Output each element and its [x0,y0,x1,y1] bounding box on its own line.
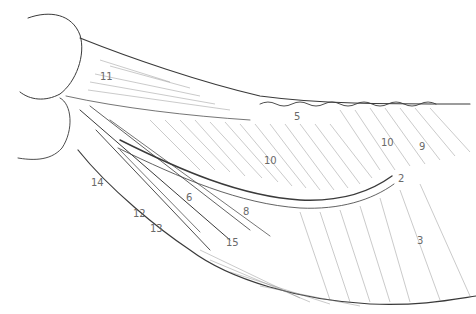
tendon-band-1 [80,110,230,240]
costal-arch [120,140,392,200]
label-12: 12 [133,209,146,219]
tendon-band-5 [120,150,200,232]
label-3: 3 [417,236,423,246]
label-14: 14 [91,178,104,188]
label-10-right: 10 [381,138,394,148]
lower-rounded-mass-outline [18,98,70,159]
label-8: 8 [243,207,249,217]
label-13: 13 [150,224,163,234]
label-11: 11 [100,72,113,82]
label-15: 15 [226,238,239,248]
label-5: 5 [294,112,300,122]
muscle-11-upper-edge [80,38,470,104]
anatomical-illustration [0,0,476,314]
muscle-11-lower-edge [66,96,250,120]
label-2: 2 [398,174,404,184]
rounded-mass-outline [20,14,82,99]
label-10-left: 10 [264,156,277,166]
lower-body-contour [78,150,476,304]
label-6: 6 [186,193,192,203]
label-9: 9 [419,142,425,152]
